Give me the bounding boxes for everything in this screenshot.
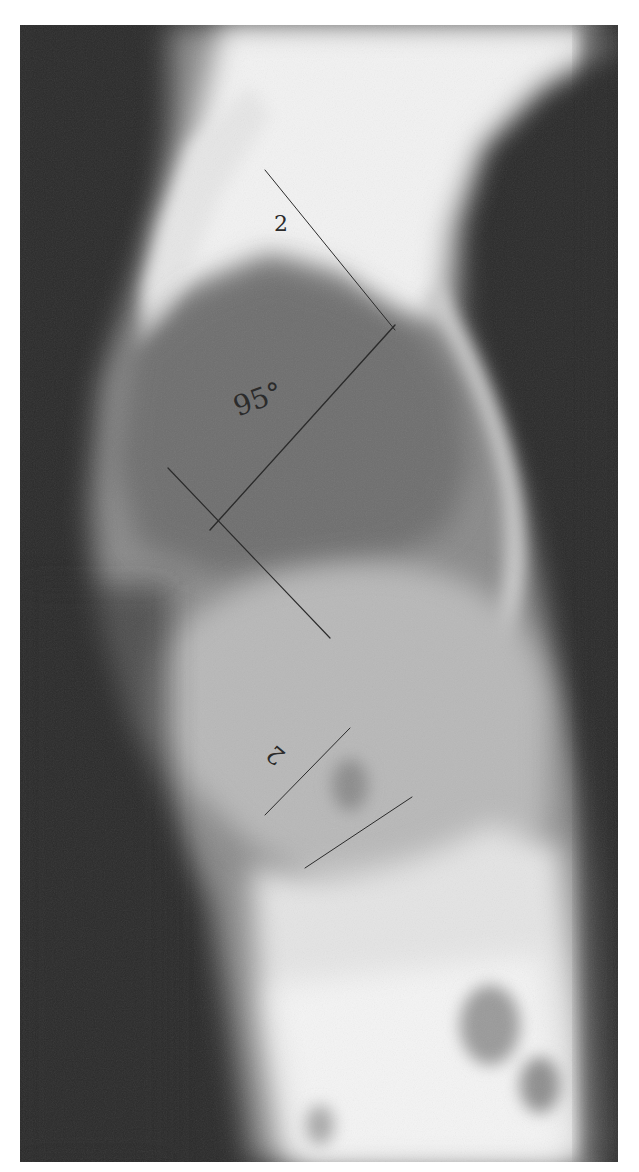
radiograph-film: 2 95° 2 <box>20 25 618 1162</box>
radiograph-image <box>20 25 618 1162</box>
